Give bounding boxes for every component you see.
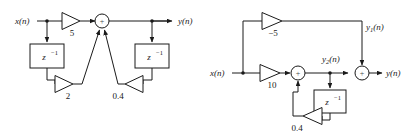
left-gain-5-triangle xyxy=(62,13,80,30)
left-gain-04-triangle xyxy=(125,76,143,93)
right-gain-10-triangle xyxy=(260,65,280,82)
right-summer1-sign: + xyxy=(296,69,301,78)
left-gain2-to-summer-diagonal xyxy=(82,30,100,84)
right-gain-04-label: 0.4 xyxy=(291,123,303,133)
left-delay2-box xyxy=(135,44,169,68)
left-delay1-box xyxy=(30,44,64,68)
left-gain04-to-summer-diagonal xyxy=(105,30,119,84)
figure-canvas: x(n) 5 + y(n) z −1 xyxy=(0,0,410,135)
left-gain-2-label: 2 xyxy=(66,91,71,101)
left-delay1-label: z xyxy=(41,52,46,62)
left-summer-sign: + xyxy=(100,17,105,26)
left-gain-2-triangle xyxy=(55,76,73,93)
right-y2-label: y2(n) xyxy=(321,54,340,65)
right-gain-10-label: 10 xyxy=(268,80,278,90)
right-gain-minus5-triangle xyxy=(262,13,282,30)
left-gain-5-label: 5 xyxy=(70,28,75,38)
right-block-diagram: x(n) −5 y1(n) 10 + y2(n) xyxy=(209,13,401,134)
left-block-diagram: x(n) 5 + y(n) z −1 xyxy=(14,13,193,102)
right-delay-label: z xyxy=(324,97,329,107)
right-y1-label: y1(n) xyxy=(365,22,384,33)
right-gain-minus5-label: −5 xyxy=(268,28,278,38)
right-summer2-sign: + xyxy=(360,69,365,78)
left-output-label: y(n) xyxy=(177,16,193,26)
left-delay2-label: z xyxy=(146,52,151,62)
right-delay-exponent: −1 xyxy=(334,94,341,101)
left-delay2-exponent: −1 xyxy=(156,49,163,56)
right-input-label: x(n) xyxy=(209,68,225,78)
right-gain-04-triangle xyxy=(303,108,322,125)
left-input-label: x(n) xyxy=(14,16,30,26)
right-output-label: y(n) xyxy=(385,68,401,78)
left-delay1-exponent: −1 xyxy=(51,49,58,56)
left-gain-04-label: 0.4 xyxy=(112,91,124,101)
signal-flow-diagrams: x(n) 5 + y(n) z −1 xyxy=(0,0,410,135)
